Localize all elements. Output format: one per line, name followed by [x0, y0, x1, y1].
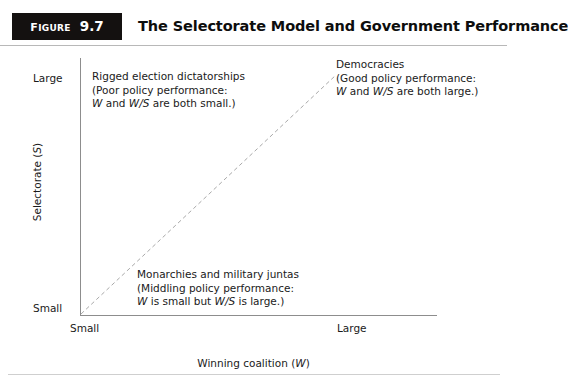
figure-badge-word: Figure [30, 19, 70, 34]
page-bottom-divider [8, 374, 500, 375]
x-axis-title-symbol: W [295, 357, 305, 369]
y-axis-title-prefix: Selectorate ( [31, 154, 43, 222]
symbol-w: W [137, 295, 147, 307]
annotation-line-1: Rigged election dictatorships [92, 70, 245, 84]
annotation-rigged-election-dictatorships: Rigged election dictatorships (Poor poli… [92, 70, 245, 111]
figure-number-badge: Figure 9.7 [12, 13, 122, 40]
x-axis-line [80, 315, 437, 316]
symbol-w: W [92, 97, 102, 109]
y-axis-title-suffix: ) [31, 143, 43, 147]
annotation-line-3-post: are both small.) [149, 97, 235, 109]
annotation-line-3-post: is large.) [235, 295, 284, 307]
symbol-w: W [336, 85, 346, 97]
annotation-democracies: Democracies (Good policy performance: W … [336, 58, 478, 99]
annotation-monarchies-and-military-juntas: Monarchies and military juntas (Middling… [137, 268, 299, 309]
annotation-line-2: (Poor policy performance: [92, 84, 245, 98]
y-axis-title: Selectorate (S) [31, 112, 43, 252]
symbol-w-over-s: W/S [373, 85, 394, 97]
annotation-line-1: Monarchies and military juntas [137, 268, 299, 282]
annotation-line-3-mid: and [102, 97, 128, 109]
figure-title: The Selectorate Model and Government Per… [138, 18, 568, 34]
annotation-line-3-mid: is small but [147, 295, 214, 307]
y-axis-tick-large: Large [33, 72, 63, 84]
symbol-w-over-s: W/S [215, 295, 236, 307]
annotation-line-3: W and W/S are both large.) [336, 85, 478, 99]
annotation-line-3: W and W/S are both small.) [92, 97, 245, 111]
chart-plot-area: Large Small Small Large Selectorate (S) … [0, 46, 507, 386]
annotation-line-3: W is small but W/S is large.) [137, 295, 299, 309]
y-axis-line [80, 58, 81, 316]
x-axis-title-prefix: Winning coalition ( [197, 357, 295, 369]
y-axis-title-symbol: S [31, 147, 43, 154]
annotation-line-3-post: are both large.) [393, 85, 478, 97]
x-axis-tick-small: Small [70, 322, 99, 334]
annotation-line-3-mid: and [346, 85, 372, 97]
annotation-line-2: (Good policy performance: [336, 72, 478, 86]
x-axis-title: Winning coalition (W) [0, 357, 507, 369]
figure-badge-number: 9.7 [80, 20, 104, 34]
annotation-line-1: Democracies [336, 58, 478, 72]
y-axis-tick-small: Small [33, 302, 62, 314]
x-axis-tick-large: Large [337, 322, 367, 334]
symbol-w-over-s: W/S [129, 97, 150, 109]
x-axis-title-suffix: ) [306, 357, 310, 369]
annotation-line-2: (Middling policy performance: [137, 282, 299, 296]
figure-header: Figure 9.7 The Selectorate Model and Gov… [0, 0, 507, 46]
